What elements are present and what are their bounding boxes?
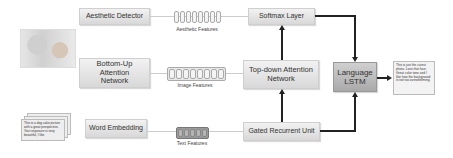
image-feature-vector bbox=[167, 67, 226, 81]
image-features-label: Image Features bbox=[172, 82, 218, 88]
arrowhead-up-icon bbox=[279, 89, 285, 94]
arrowhead-down-icon bbox=[352, 57, 358, 62]
output-caption: This is just the cutest photo. Love that… bbox=[393, 61, 435, 95]
arrow-softmax-to-lstm-v bbox=[354, 15, 356, 58]
text-feature-vector bbox=[176, 127, 209, 139]
language-lstm-box: Language LSTM bbox=[333, 62, 377, 92]
input-text-doc: This is a dog cake picture with a great … bbox=[21, 119, 65, 141]
text-features-label: Text Features bbox=[172, 140, 212, 146]
input-photo bbox=[20, 29, 76, 68]
arrow-topdown-to-softmax bbox=[281, 29, 283, 60]
arrowhead-up-icon bbox=[352, 92, 358, 97]
bottom-up-attention-box: Bottom-Up Attention Network bbox=[79, 58, 150, 88]
aesthetic-feature-vector bbox=[174, 11, 221, 23]
aesthetic-features-label: Aesthetic Features bbox=[174, 26, 220, 32]
aesthetic-detector-box: Aesthetic Detector bbox=[79, 8, 150, 25]
arrow-gru-to-lstm-v bbox=[354, 96, 356, 132]
top-down-attention-box: Top-down Attention Network bbox=[243, 60, 319, 89]
arrow-gru-to-topdown bbox=[281, 93, 283, 122]
arrowhead-up-icon bbox=[279, 25, 285, 30]
arrowhead-right-icon bbox=[387, 75, 392, 81]
softmax-layer-box: Softmax Layer bbox=[248, 8, 315, 25]
arrow-gru-to-lstm-h bbox=[320, 130, 356, 132]
gated-recurrent-unit-box: Gated Recurrent Unit bbox=[243, 122, 320, 141]
arrow-softmax-to-lstm-h bbox=[315, 15, 356, 17]
word-embedding-box: Word Embedding bbox=[85, 119, 147, 138]
